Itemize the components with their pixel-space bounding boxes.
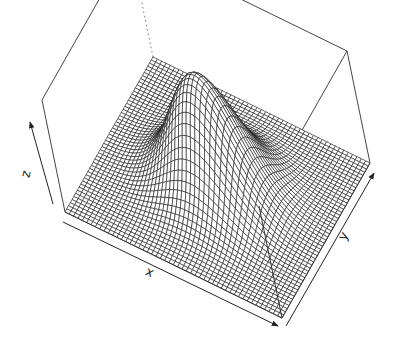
surface-mesh	[65, 57, 370, 318]
surface-plot: x y z	[0, 0, 407, 344]
y-axis-label: y	[335, 229, 352, 243]
x-axis-label: x	[143, 263, 157, 280]
z-axis-label: z	[18, 169, 34, 179]
